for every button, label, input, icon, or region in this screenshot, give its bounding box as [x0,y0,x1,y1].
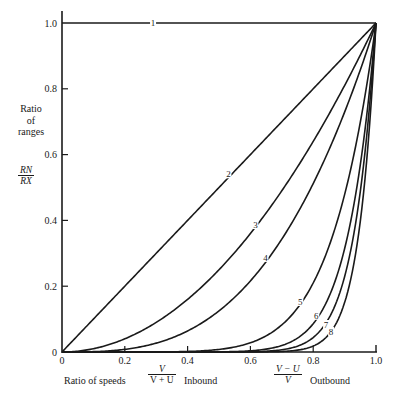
x-axis-label: Ratio of speeds [64,375,126,387]
curve-label-3: 3 [253,220,258,230]
curve-label-8: 8 [329,327,334,337]
curve-label-1: 1 [151,18,156,28]
y-tick-label: 1.0 [45,18,58,29]
x-outbound-denominator: V [274,375,302,385]
y-tick-label: 0.4 [45,215,58,226]
y-label-line-2: of [12,115,50,127]
curve-label-2: 2 [226,169,231,179]
y-frac-numerator: RN [18,165,34,176]
y-tick-label: 0 [52,347,57,358]
x-inbound-label: Inbound [184,375,217,387]
curve-label-4: 4 [263,253,268,263]
y-tick-label: 0.2 [45,281,58,292]
y-frac-denominator: RX [18,176,34,186]
x-tick-label: 1.0 [370,355,383,366]
x-outbound-fraction: V − U V [274,364,302,385]
x-tick-label: 0.6 [244,355,257,366]
x-outbound-label: Outbound [310,375,350,387]
x-tick-label: 0.2 [119,355,132,366]
range-ratio-chart: 00.20.40.60.81.000.20.40.60.81.0 1234567… [0,0,397,394]
curve-label-6: 6 [314,311,319,321]
x-inbound-fraction: V V + U [148,364,176,385]
curve-label-5: 5 [298,297,303,307]
y-axis-fraction: RN RX [18,165,34,186]
curve-2 [62,23,376,352]
y-label-line-3: ranges [12,126,50,138]
x-inbound-numerator: V [148,364,176,375]
x-tick-label: 0 [60,355,65,366]
curve-group [62,23,376,352]
y-axis-label: Ratio of ranges [12,103,50,138]
x-tick-label: 0.4 [181,355,194,366]
x-inbound-denominator: V + U [148,375,176,385]
y-tick-label: 0.6 [45,149,58,160]
x-tick-label: 0.8 [307,355,320,366]
x-outbound-numerator: V − U [274,364,302,375]
y-label-line-1: Ratio [12,103,50,115]
y-tick-label: 0.8 [45,83,58,94]
